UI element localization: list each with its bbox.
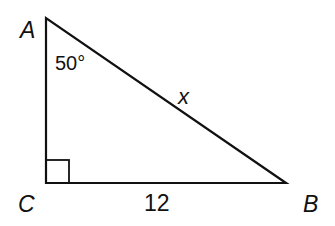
vertex-label-c: C xyxy=(18,191,35,217)
right-angle-marker xyxy=(46,160,69,183)
base-length-label: 12 xyxy=(144,190,170,216)
vertex-label-a: A xyxy=(18,17,35,43)
angle-label: 50° xyxy=(55,52,85,74)
triangle-diagram: A C B 50° x 12 xyxy=(0,0,335,226)
triangle-outline xyxy=(46,18,286,183)
vertex-label-b: B xyxy=(303,191,318,217)
hypotenuse-label: x xyxy=(177,84,190,109)
